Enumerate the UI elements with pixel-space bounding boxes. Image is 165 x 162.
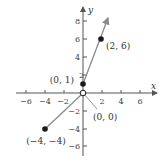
y-axis-label: y bbox=[87, 5, 94, 15]
label-neg4-neg4: (−4, −4) bbox=[26, 136, 65, 146]
point-0-1 bbox=[80, 81, 86, 87]
y-tick-label: 8 bbox=[75, 17, 80, 26]
point-2-6 bbox=[98, 36, 104, 42]
y-tick-label: −4 bbox=[68, 125, 80, 134]
x-tick-label: 2 bbox=[99, 97, 104, 106]
y-tick-label: 4 bbox=[75, 53, 80, 62]
y-tick-label: −2 bbox=[68, 107, 80, 116]
x-tick-label: −4 bbox=[39, 97, 51, 106]
point-0-0-open bbox=[80, 90, 86, 96]
label-2-6: (2, 6) bbox=[106, 41, 130, 51]
x-tick-label: 6 bbox=[137, 97, 142, 106]
right-ray bbox=[83, 18, 108, 84]
point-neg4-neg4 bbox=[42, 126, 48, 132]
x-axis-label: x bbox=[151, 81, 156, 91]
y-tick-label: 2 bbox=[79, 71, 84, 80]
piecewise-graph: −6 −4 −2 2 4 6 8 6 4 2 −2 −4 −6 y x (−4,… bbox=[0, 0, 165, 162]
label-0-0: (0, 0) bbox=[93, 112, 117, 122]
y-tick-label: 6 bbox=[75, 35, 80, 44]
y-tick-label: −6 bbox=[68, 142, 80, 151]
x-tick-label: −6 bbox=[20, 97, 32, 106]
origin-leader-line bbox=[84, 94, 97, 109]
label-0-1: (0, 1) bbox=[50, 75, 74, 85]
x-tick-label: 4 bbox=[118, 97, 123, 106]
x-tick-label: −2 bbox=[57, 97, 69, 106]
